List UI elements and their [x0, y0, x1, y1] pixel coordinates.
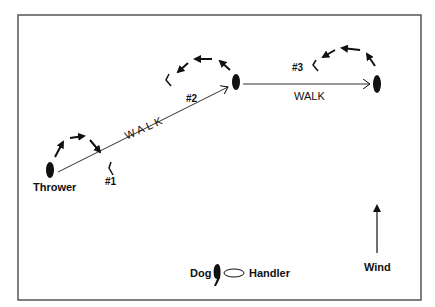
handler-icon: [224, 269, 244, 277]
diagram-frame: [18, 15, 421, 300]
mark-2-label: #2: [186, 93, 197, 104]
legend-wind-label: Wind: [364, 261, 391, 273]
mark-3-label: #3: [292, 62, 303, 73]
mark-1-label: #1: [105, 176, 116, 187]
walk-label-2: WALK: [294, 90, 325, 102]
thrower-marker: [46, 162, 54, 178]
thrower-label: Thrower: [33, 181, 76, 193]
station-2-marker: [232, 74, 240, 90]
station-3-marker: [373, 75, 381, 93]
legend-handler-label: Handler: [249, 267, 290, 279]
legend-dog-label: Dog: [190, 267, 211, 279]
